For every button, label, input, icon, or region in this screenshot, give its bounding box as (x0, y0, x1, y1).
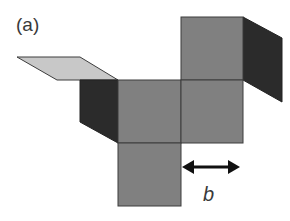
dimension-arrow (182, 160, 240, 174)
face-bottom (118, 143, 181, 206)
face-middle-right (181, 80, 243, 143)
face-top (181, 17, 243, 80)
panel-label: (a) (16, 14, 39, 36)
arrowhead-right-icon (228, 160, 240, 174)
dark-flap-left (80, 80, 118, 143)
light-flap (17, 57, 118, 80)
face-middle-left (118, 80, 181, 143)
arrowhead-left-icon (182, 160, 194, 174)
dimension-label: b (203, 183, 214, 206)
cube-net-diagram (0, 0, 290, 221)
dark-flap-right (243, 17, 282, 102)
